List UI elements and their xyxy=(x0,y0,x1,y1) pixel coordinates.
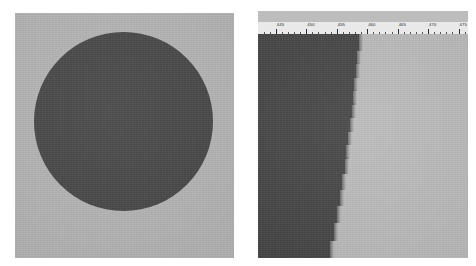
tick-label: 465 xyxy=(399,22,406,28)
step-band-edge xyxy=(336,204,341,223)
tick-label: 455 xyxy=(338,22,345,28)
tick-label: 475 xyxy=(460,22,467,28)
tick-label: 460 xyxy=(368,22,375,28)
figure-root: 445450455460465470475 xyxy=(0,0,476,266)
step-band-edge xyxy=(339,189,344,206)
step-band xyxy=(258,34,359,51)
step-band-edge xyxy=(329,240,334,258)
tick-label: 445 xyxy=(277,22,284,28)
step-band xyxy=(258,204,337,223)
step-band-edge xyxy=(344,157,349,174)
step-profile-plot xyxy=(258,34,468,258)
step-band xyxy=(258,240,330,258)
tick-label: 450 xyxy=(307,22,314,28)
tick-row: 445450455460465470475 xyxy=(258,22,468,34)
step-band xyxy=(258,189,340,206)
panel-right: 445450455460465470475 xyxy=(258,11,468,258)
step-band-edge xyxy=(341,173,346,190)
tick-label: 470 xyxy=(429,22,436,28)
step-band xyxy=(258,222,334,241)
horizontal-scale-bar: 445450455460465470475 xyxy=(258,22,468,34)
circle-shape xyxy=(34,32,213,211)
step-band xyxy=(258,157,345,174)
panel-right-header-band xyxy=(258,11,468,22)
step-band xyxy=(258,173,342,190)
step-band-edge xyxy=(358,34,363,51)
step-band-edge xyxy=(333,222,338,241)
panel-left xyxy=(15,13,234,258)
